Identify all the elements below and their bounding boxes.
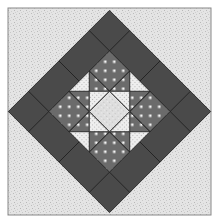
quilt-block [0, 0, 219, 223]
quilt-block-image [0, 0, 219, 223]
